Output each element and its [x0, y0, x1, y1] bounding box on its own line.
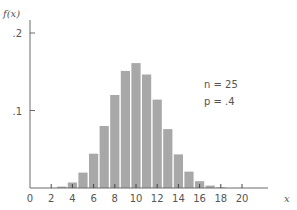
x-tick-label: 8 [112, 193, 118, 204]
bar-x5 [78, 173, 87, 188]
x-tick-label: 16 [193, 193, 206, 204]
bar-x14 [174, 154, 183, 188]
bar-x10 [131, 63, 140, 188]
bar-x8 [110, 95, 119, 188]
x-axis-label: x [284, 193, 290, 204]
x-tick-label: 0 [27, 193, 33, 204]
y-tick-label: .1 [12, 106, 22, 117]
x-tick-label: 18 [214, 193, 227, 204]
bar-x15 [184, 172, 193, 188]
bar-x9 [121, 71, 130, 188]
x-tick-label: 10 [130, 193, 143, 204]
bar-x13 [163, 129, 172, 188]
x-tick-label: 6 [90, 193, 96, 204]
binomial-chart: 02468101214161820 .1.2 f(x) x n = 25 p =… [0, 0, 297, 210]
x-tick-label: 2 [48, 193, 54, 204]
bar-x7 [100, 126, 109, 188]
bar-x11 [142, 75, 151, 189]
y-axis-label: f(x) [2, 8, 20, 19]
y-tick-label: .2 [12, 28, 22, 39]
annotation-n: n = 25 [204, 79, 238, 90]
annotation-p: p = .4 [204, 96, 235, 107]
x-tick-label: 12 [151, 193, 164, 204]
y-ticks: .1.2 [12, 28, 35, 117]
bars [57, 63, 225, 188]
x-tick-label: 20 [236, 193, 249, 204]
x-tick-label: 4 [69, 193, 75, 204]
x-tick-label: 14 [172, 193, 185, 204]
bar-x6 [89, 154, 98, 188]
bar-x12 [153, 100, 162, 188]
